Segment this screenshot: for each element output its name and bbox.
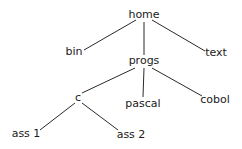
node-home: home [128, 9, 159, 21]
node-progs: progs [129, 55, 160, 67]
edge-home-text [152, 20, 205, 51]
edge-progs-pascal [143, 68, 144, 97]
node-c: c [75, 92, 81, 104]
node-cobol: cobol [200, 94, 230, 106]
node-pascal: pascal [125, 98, 160, 110]
node-text: text [205, 47, 227, 59]
directory-tree-diagram: home bin text progs c pascal cobol ass 1… [0, 0, 242, 149]
edge-home-bin [84, 20, 136, 50]
node-ass2: ass 2 [117, 129, 146, 141]
edge-c-ass1 [40, 103, 75, 130]
edge-progs-c [82, 68, 135, 93]
node-bin: bin [65, 46, 82, 58]
edge-progs-cobol [152, 68, 202, 96]
edge-c-ass2 [82, 103, 118, 130]
node-ass1: ass 1 [12, 128, 41, 140]
